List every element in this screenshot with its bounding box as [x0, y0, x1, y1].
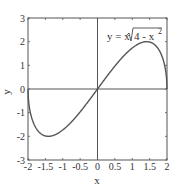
y-tick-label: -3 [17, 155, 25, 166]
y-tick-label: 0 [20, 84, 25, 95]
equation-prefix: y = x [107, 30, 130, 42]
x-tick-label: -0.5 [72, 161, 88, 172]
x-tick-label: 0 [95, 161, 100, 172]
x-axis-label: x [94, 174, 100, 186]
y-tick-label: 1 [20, 60, 25, 71]
x-tick-label: 2 [165, 161, 170, 172]
y-tick-label: -1 [17, 107, 25, 118]
y-tick-label: -2 [17, 131, 25, 142]
y-tick-label: 2 [20, 36, 25, 47]
x-tick-label: 0.5 [109, 161, 122, 172]
equation-annotation: y = x 4 - x 2 [107, 27, 162, 42]
x-tick-label: 1 [130, 161, 135, 172]
equation-exponent: 2 [158, 27, 162, 36]
x-tick-label: 1.5 [143, 161, 156, 172]
y-tick-label: 3 [20, 13, 25, 24]
y-axis-label: y [0, 89, 12, 95]
x-tick-label: -2 [24, 161, 32, 172]
x-tick-label: -1.5 [37, 161, 53, 172]
chart-figure: -2-1.5-1-0.500.511.52 -3-2-10123 y = x 4… [0, 0, 175, 196]
x-tick-label: -1 [59, 161, 67, 172]
equation-radicand: 4 - x [134, 30, 155, 42]
